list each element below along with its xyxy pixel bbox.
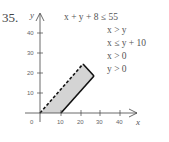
coordinate-graph: 10 20 30 40 0 10 20 30 40 y x xyxy=(0,0,169,142)
y-tick-label: 10 xyxy=(27,90,34,96)
x-tick-label: 40 xyxy=(116,119,123,125)
y-axis-label: y xyxy=(29,10,34,20)
y-tick-label: 20 xyxy=(27,70,34,76)
x-axis-label: x xyxy=(135,117,140,127)
x-tick-label: 20 xyxy=(77,119,84,125)
y-tick-label: 30 xyxy=(27,50,34,56)
y-tick-label: 40 xyxy=(27,30,34,36)
x-tick-label: 10 xyxy=(57,119,64,125)
origin-label: 0 xyxy=(30,119,34,125)
x-tick-label: 30 xyxy=(96,119,103,125)
